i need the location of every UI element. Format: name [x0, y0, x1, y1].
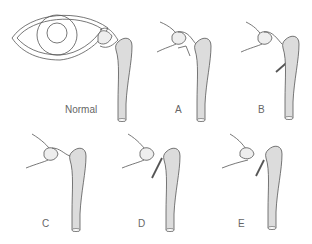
panel-e: [222, 134, 282, 230]
iris: [37, 15, 77, 55]
lacrimal-sac: [116, 38, 132, 121]
panel-c: [26, 134, 86, 232]
label-e: E: [238, 218, 245, 229]
caruncle: [98, 31, 112, 44]
eyelid-outline: [12, 15, 108, 60]
diagram-canvas: [0, 0, 312, 244]
label-a: A: [175, 104, 182, 115]
pupil: [47, 23, 67, 43]
panel-b: [241, 22, 299, 120]
panel-d: [122, 134, 180, 232]
label-d: D: [138, 218, 145, 229]
label-c: C: [42, 218, 49, 229]
label-b: B: [258, 104, 265, 115]
panel-a: [157, 22, 211, 122]
label-normal: Normal: [65, 104, 97, 115]
